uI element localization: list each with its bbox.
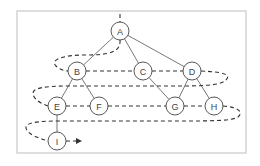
node-label: E [54,102,60,112]
tree-node-h: H [205,97,223,115]
tree-node-a: A [111,22,129,40]
tree-node-e: E [48,97,66,115]
tree-traversal-diagram: ABCDEFGHI [0,0,260,166]
diagram-frame [17,11,246,153]
tree-node-c: C [134,62,152,80]
node-label: I [56,137,59,147]
tree-node-i: I [48,132,66,150]
node-label: G [171,102,178,112]
node-label: B [74,67,80,77]
tree-node-g: G [166,97,184,115]
node-label: C [140,67,147,77]
node-label: H [211,102,218,112]
node-label: A [117,27,123,37]
tree-node-f: F [90,97,108,115]
node-label: F [96,102,102,112]
tree-node-b: B [68,62,86,80]
node-label: D [189,67,196,77]
tree-node-d: D [183,62,201,80]
